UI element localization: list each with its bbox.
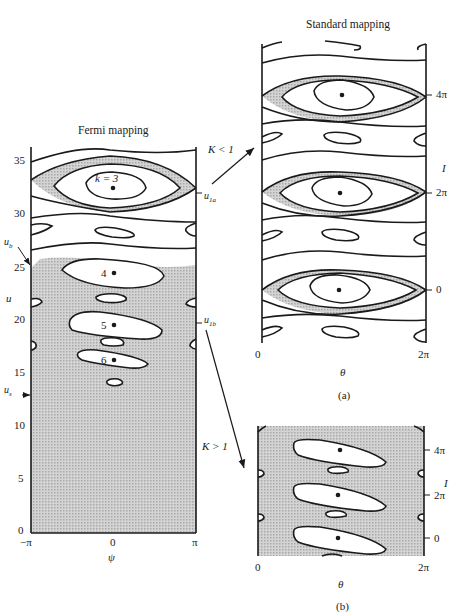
standard-b-ytick-0: 0 (434, 532, 440, 544)
island-label-k3: k = 3 (95, 172, 118, 184)
standard-a-x-axis-label: θ (340, 366, 345, 378)
marker-u1b: u1b (204, 314, 216, 328)
standard-b-caption: (b) (336, 600, 349, 612)
marker-us: us (4, 384, 12, 398)
standard-a-ytick-0: 0 (436, 283, 442, 295)
standard-mapping-b-plot (258, 426, 424, 556)
standard-a-ytick-4pi: 4π (436, 88, 447, 100)
fermi-xtick-0: 0 (110, 536, 116, 548)
standard-a-title: Standard mapping (306, 18, 390, 30)
standard-a-xtick-0: 0 (255, 348, 261, 360)
fermi-mapping-plot (31, 147, 196, 533)
standard-b-ytick-4pi: 4π (434, 444, 445, 456)
fermi-ytick-15: 15 (14, 366, 25, 378)
standard-b-x-axis-label: θ (338, 578, 343, 590)
fermi-ytick-10: 10 (14, 419, 25, 431)
figure-canvas (0, 0, 456, 614)
fermi-ytick-20: 20 (14, 313, 25, 325)
fermi-x-axis-label: ψ (108, 551, 115, 563)
fermi-xtick-minus-pi: −π (20, 536, 32, 548)
standard-b-ytick-2pi: 2π (434, 489, 445, 501)
fermi-xtick-pi: π (192, 536, 198, 548)
arrow-label-k-less-1: K < 1 (208, 143, 234, 155)
standard-b-xtick-0: 0 (255, 561, 261, 573)
marker-u1a: u1a (204, 190, 216, 204)
fermi-ytick-30: 30 (14, 207, 25, 219)
fermi-ytick-35: 35 (14, 154, 25, 166)
island-label-6: 6 (101, 354, 107, 366)
arrow-label-k-greater-1: K > 1 (202, 440, 228, 452)
fermi-ytick-0: 0 (18, 524, 24, 536)
standard-mapping-a-plot (262, 41, 426, 343)
standard-a-ytick-2pi: 2π (436, 186, 447, 198)
fermi-ytick-25: 25 (14, 261, 25, 273)
island-label-5: 5 (101, 319, 107, 331)
fermi-ytick-5: 5 (18, 472, 24, 484)
standard-a-caption: (a) (338, 389, 350, 401)
standard-a-xtick-2pi: 2π (418, 348, 429, 360)
standard-b-y-axis-label: I (444, 477, 448, 489)
fermi-y-axis-label: u (6, 292, 12, 304)
standard-a-y-axis-label: I (442, 162, 446, 174)
standard-b-xtick-2pi: 2π (418, 561, 429, 573)
island-label-4: 4 (101, 267, 107, 279)
fermi-title: Fermi mapping (78, 124, 149, 136)
marker-ub: ub (4, 236, 13, 250)
